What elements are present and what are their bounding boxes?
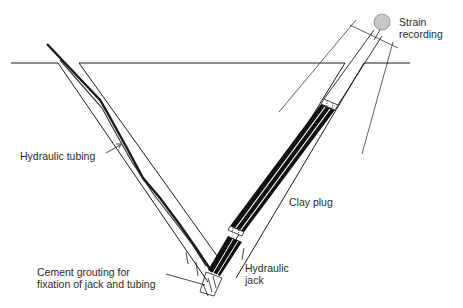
clay-plug [230, 104, 335, 232]
gauge-rod [324, 30, 382, 105]
reference-lines [279, 20, 398, 154]
diagram-canvas: Strain recording Hydraulic tubing Clay p… [0, 0, 463, 308]
label-clay-plug: Clay plug [289, 196, 333, 208]
leader-lines [106, 144, 205, 285]
label-hydraulic-jack: Hydraulic jack [245, 262, 289, 286]
label-hydraulic-tubing: Hydraulic tubing [20, 150, 95, 162]
hydraulic-tubing-inner [60, 60, 206, 266]
label-strain-recording: Strain recording [399, 16, 443, 40]
label-cement-grouting: Cement grouting for fixation of jack and… [37, 266, 156, 290]
